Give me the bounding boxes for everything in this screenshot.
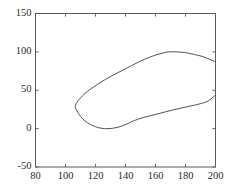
y-tick-label: 150 — [16, 8, 32, 19]
x-tick-label: 100 — [51, 171, 81, 182]
x-tick-label: 80 — [21, 171, 51, 182]
x-tick-label: 200 — [201, 171, 231, 182]
axes-frame-rect — [36, 14, 216, 168]
tick-marks — [36, 14, 216, 168]
axes-frame — [36, 14, 216, 168]
figure-container: -50050100150 80100120140160180200 — [0, 0, 231, 196]
x-tick-label: 160 — [141, 171, 171, 182]
data-curve-upper-branch — [75, 52, 215, 112]
x-tick-label: 180 — [171, 171, 201, 182]
data-curves — [75, 52, 215, 129]
x-tick-label: 120 — [81, 171, 111, 182]
plot-canvas — [0, 0, 231, 196]
y-tick-label: 50 — [21, 84, 32, 95]
y-tick-label: 100 — [16, 46, 32, 57]
y-tick-label: 0 — [26, 123, 31, 134]
x-tick-label: 140 — [111, 171, 141, 182]
data-curve-lower-branch — [78, 95, 216, 129]
